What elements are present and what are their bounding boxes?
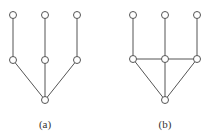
node-t1	[130, 12, 137, 19]
node-t1	[10, 12, 17, 19]
node-m3	[194, 56, 201, 63]
edge-m3-r	[165, 59, 197, 100]
diagram-canvas: (a) (b)	[0, 0, 211, 136]
node-m1	[10, 57, 17, 64]
node-m3	[74, 57, 81, 64]
node-m1	[130, 56, 137, 63]
node-t2	[42, 12, 49, 19]
node-r	[162, 97, 169, 104]
node-m2	[42, 57, 49, 64]
node-t3	[74, 12, 81, 19]
node-m2	[162, 56, 169, 63]
edge-m1-r	[13, 60, 45, 100]
node-t3	[194, 12, 201, 19]
diagram-b-label: (b)	[159, 118, 172, 131]
node-t2	[162, 12, 169, 19]
edge-m1-r	[133, 59, 165, 100]
edge-m3-r	[45, 60, 77, 100]
node-r	[42, 97, 49, 104]
diagram-a-label: (a)	[39, 118, 52, 131]
diagram-a	[10, 12, 81, 104]
diagram-b	[130, 12, 201, 104]
